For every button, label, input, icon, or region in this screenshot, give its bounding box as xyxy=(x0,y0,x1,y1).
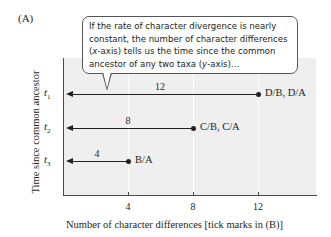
x-tick-label-4: 4 xyxy=(118,201,138,212)
x-tick-8 xyxy=(193,192,194,196)
data-point-t3 xyxy=(126,159,131,164)
y-axis-line xyxy=(63,58,64,196)
count-label-t1: 12 xyxy=(150,81,170,92)
callout-line-3: (x-axis) tells us the time since the com… xyxy=(89,45,291,58)
arrow-line-t1 xyxy=(70,94,258,95)
x-tick-12 xyxy=(258,192,259,196)
callout-line-1: If the rate of character divergence is n… xyxy=(89,20,291,33)
pair-label-t1: D/B, D/A xyxy=(265,87,306,98)
y-tick-label-t1: t1 xyxy=(44,86,51,101)
x-axis-label: Number of character differences [tick ma… xyxy=(66,219,283,230)
arrow-line-t2 xyxy=(70,128,193,129)
callout-line-4: ancestor of any two taxa (y-axis)… xyxy=(89,58,291,71)
x-tick-label-12: 12 xyxy=(248,201,268,212)
callout-box: If the rate of character divergence is n… xyxy=(82,16,298,74)
data-point-t2 xyxy=(191,126,196,131)
count-label-t3: 4 xyxy=(87,148,107,159)
pair-label-t2: C/B, C/A xyxy=(200,121,240,132)
y-axis-label: Time since common ancestor xyxy=(30,71,41,194)
x-axis-line xyxy=(63,195,317,196)
x-tick-label-8: 8 xyxy=(183,201,203,212)
x-tick-4 xyxy=(128,192,129,196)
gridline-12 xyxy=(258,58,259,195)
callout-line-2: constant, the number of character differ… xyxy=(89,33,291,46)
pair-label-t3: B/A xyxy=(135,154,153,165)
arrow-line-t3 xyxy=(70,161,128,162)
y-tick-label-t3: t3 xyxy=(44,153,51,168)
gridline-4 xyxy=(128,58,129,195)
count-label-t2: 8 xyxy=(118,115,138,126)
callout-tail-fill xyxy=(103,72,111,88)
data-point-t1 xyxy=(256,92,261,97)
y-tick-label-t2: t2 xyxy=(44,120,51,135)
panel-label: (A) xyxy=(18,12,33,24)
